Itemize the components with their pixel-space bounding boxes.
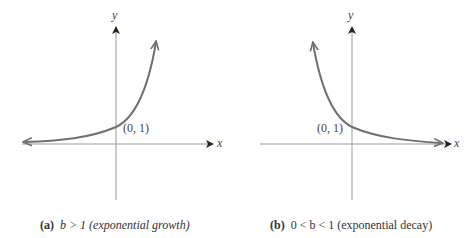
panel-a-caption-text: b > 1 (exponential growth) — [60, 218, 190, 232]
panel-b-y-label: y — [348, 8, 353, 23]
panel-a-caption-tag: (a) — [40, 218, 54, 232]
panel-b-caption-text: 0 < b < 1 (exponential decay) — [291, 218, 433, 232]
panel-b-caption-tag: (b) — [270, 218, 285, 232]
figure-canvas — [0, 0, 475, 238]
panel-b-point-label: (0, 1) — [317, 121, 343, 136]
panel-b-x-label: x — [454, 136, 459, 151]
panel-a-point-label: (0, 1) — [123, 121, 149, 136]
panel-a-growth — [22, 27, 213, 200]
panel-a-y-label: y — [112, 8, 117, 23]
panel-b-caption: (b)0 < b < 1 (exponential decay) — [270, 218, 432, 233]
panel-a-caption: (a)b > 1 (exponential growth) — [40, 218, 190, 233]
panel-b-decay — [260, 27, 451, 200]
panel-a-x-label: x — [217, 136, 222, 151]
